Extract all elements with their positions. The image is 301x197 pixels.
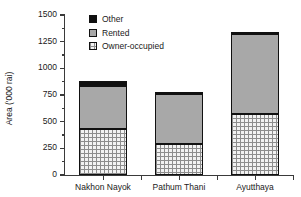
legend-item-owner-occupied: Owner-occupied — [89, 41, 164, 51]
y-tick-label: 1500 — [38, 9, 57, 19]
chart-legend: Other Rented Owner-occupied — [89, 14, 164, 51]
legend-item-other: Other — [89, 14, 164, 24]
x-tick-mark — [103, 175, 104, 180]
x-tick-mark — [179, 175, 180, 180]
bar-segment-other — [79, 81, 127, 86]
x-tick-separator — [217, 175, 218, 180]
bar-segment-other — [155, 92, 203, 94]
legend-swatch-rented-icon — [89, 29, 97, 37]
bar-segment-rented — [155, 94, 203, 144]
bar-segment-rented — [79, 86, 127, 129]
bar-segment-rented — [231, 34, 279, 114]
bar-segment-other — [231, 32, 279, 34]
x-tick-mark — [255, 175, 256, 180]
legend-item-rented: Rented — [89, 28, 164, 38]
legend-label-owner-occupied: Owner-occupied — [102, 41, 164, 51]
y-tick-label: 750 — [43, 89, 57, 99]
x-tick-separator — [293, 175, 294, 180]
y-tick-label: 0 — [52, 169, 57, 179]
bar-ayutthaya — [231, 15, 279, 175]
legend-swatch-owner-occupied-icon — [89, 42, 97, 50]
bar-segment-owner-occupied — [155, 144, 203, 175]
y-tick-label: 500 — [43, 116, 57, 126]
x-tick-separator — [141, 175, 142, 180]
x-axis-label: Nakhon Nayok — [75, 182, 131, 192]
y-tick-label: 250 — [43, 142, 57, 152]
stacked-bar-chart: Area ('000 rai) 0250500750100012501500 N… — [0, 0, 301, 197]
y-axis-title: Area ('000 rai) — [0, 0, 18, 197]
bar-segment-owner-occupied — [79, 129, 127, 175]
legend-label-rented: Rented — [102, 28, 129, 38]
legend-label-other: Other — [102, 14, 123, 24]
x-axis-label: Ayutthaya — [236, 182, 274, 192]
x-axis-label: Pathum Thani — [153, 182, 206, 192]
bar-segment-owner-occupied — [231, 114, 279, 175]
y-tick-label: 1000 — [38, 62, 57, 72]
legend-swatch-other-icon — [89, 15, 97, 23]
y-tick-label: 1250 — [38, 36, 57, 46]
